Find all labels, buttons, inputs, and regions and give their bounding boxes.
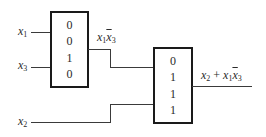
- input-label-x2: x2: [18, 114, 27, 129]
- lut-2-value: 1: [170, 102, 176, 119]
- intermediate-output-label: x1x3: [97, 30, 116, 45]
- wire-x2-b: [110, 104, 111, 123]
- input-label-x3: x3: [18, 58, 27, 73]
- input-label-x1: x1: [18, 24, 27, 39]
- lut-2: 0 1 1 1: [153, 47, 193, 124]
- wire-output: [192, 86, 252, 87]
- lut-1-value: 0: [67, 66, 73, 83]
- lut-1: 0 0 1 0: [50, 11, 89, 88]
- lut-1-value: 0: [67, 17, 73, 34]
- lut-1-value: 1: [67, 50, 73, 67]
- lut-2-value: 0: [170, 53, 176, 70]
- wire-x3: [31, 67, 51, 68]
- wire-x2-c: [110, 104, 154, 105]
- wire-mid-c: [110, 67, 154, 68]
- lut-2-value: 1: [170, 69, 176, 86]
- final-output-label: x2 + x1x3: [201, 68, 242, 83]
- wire-x1: [31, 32, 51, 33]
- wire-mid-b: [110, 49, 111, 68]
- wire-mid-a: [88, 49, 111, 50]
- lut-1-value: 0: [67, 33, 73, 50]
- wire-x2-a: [31, 122, 111, 123]
- lut-2-value: 1: [170, 86, 176, 103]
